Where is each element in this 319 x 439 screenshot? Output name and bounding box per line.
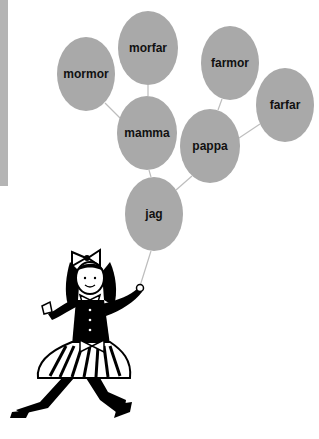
line-farmor-pappa xyxy=(218,99,222,110)
line-mormor-mamma xyxy=(105,103,120,118)
family-balloon-diagram: mormor morfar farmor farfar mamma pappa … xyxy=(0,0,319,439)
balloon-label: mamma xyxy=(124,126,170,140)
balloon-label: mormor xyxy=(63,67,109,81)
balloon-label: pappa xyxy=(192,139,228,153)
balloon-string xyxy=(140,251,151,286)
balloon-label: farmor xyxy=(211,56,249,70)
balloon-morfar: morfar xyxy=(118,11,178,85)
line-mamma-jag xyxy=(149,170,151,177)
balloon-farmor: farmor xyxy=(201,26,259,100)
balloon-mormor: mormor xyxy=(57,37,115,111)
balloon-label: morfar xyxy=(129,41,167,55)
balloon-mamma: mamma xyxy=(117,96,177,170)
balloon-label: jag xyxy=(144,207,162,221)
line-farfar-pappa xyxy=(239,124,260,138)
balloon-jag: jag xyxy=(125,177,183,251)
line-pappa-jag xyxy=(176,176,192,190)
girl-illustration-icon xyxy=(10,250,144,418)
balloon-pappa: pappa xyxy=(180,109,240,183)
diagram-canvas: mormor morfar farmor farfar mamma pappa … xyxy=(0,0,319,439)
balloon-farfar: farfar xyxy=(256,68,314,142)
balloon-label: farfar xyxy=(270,98,301,112)
